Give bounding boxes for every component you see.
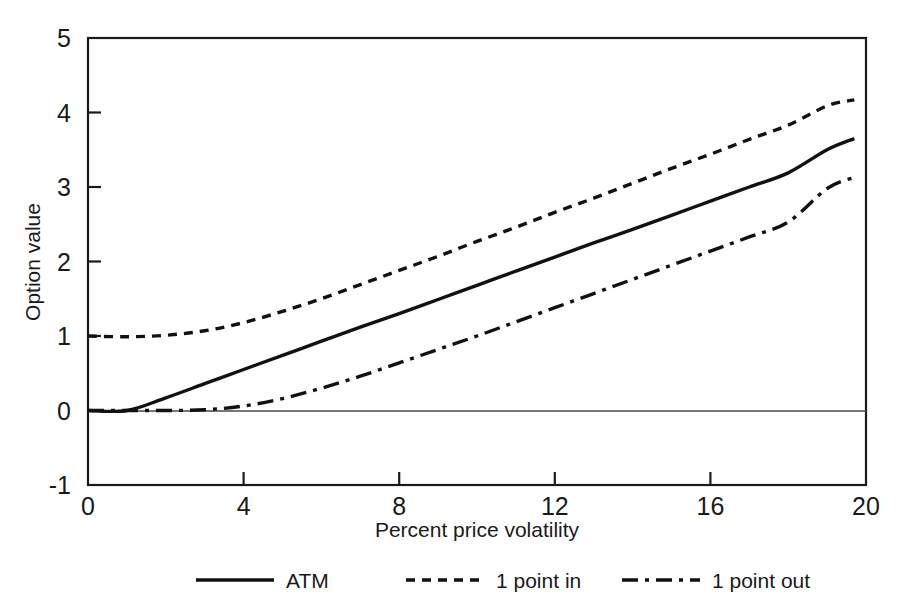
y-tick-label-0: 0 xyxy=(57,397,71,425)
data-series-group xyxy=(88,100,854,412)
chart-figure: -1012345 048121620 Percent price volatil… xyxy=(0,0,898,609)
x-tick-label-0: 0 xyxy=(81,492,95,520)
y-tick-label-5: 5 xyxy=(57,24,71,52)
x-tick-label-12: 12 xyxy=(541,492,569,520)
y-tick-label-1: 1 xyxy=(57,322,71,350)
y-axis-ticks xyxy=(88,113,101,411)
legend-label-2: 1 point out xyxy=(712,569,810,592)
series-line-1-point-out xyxy=(88,177,854,410)
series-line-1-point-in xyxy=(88,100,854,337)
y-axis-title: Option value xyxy=(21,203,44,321)
series-line-atm xyxy=(88,139,854,412)
x-axis-title: Percent price volatility xyxy=(375,518,580,541)
y-tick-label-3: 3 xyxy=(57,173,71,201)
x-tick-label-8: 8 xyxy=(392,492,406,520)
x-tick-label-20: 20 xyxy=(852,492,880,520)
legend-label-0: ATM xyxy=(286,569,329,592)
chart-legend: ATM1 point in1 point out xyxy=(196,569,810,592)
legend-entry-2: 1 point out xyxy=(622,569,810,592)
x-tick-label-16: 16 xyxy=(696,492,724,520)
y-tick-label-2: 2 xyxy=(57,248,71,276)
y-tick-label-4: 4 xyxy=(57,99,71,127)
legend-entry-1: 1 point in xyxy=(406,569,581,592)
y-axis-tick-labels: -1012345 xyxy=(49,24,71,499)
x-tick-label-4: 4 xyxy=(237,492,251,520)
legend-entry-0: ATM xyxy=(196,569,329,592)
x-axis-tick-labels: 048121620 xyxy=(81,492,880,520)
plot-area-frame xyxy=(88,38,866,485)
legend-label-1: 1 point in xyxy=(496,569,581,592)
option-value-line-chart: -1012345 048121620 Percent price volatil… xyxy=(0,0,898,609)
y-tick-label--1: -1 xyxy=(49,471,71,499)
x-axis-ticks xyxy=(244,472,711,485)
